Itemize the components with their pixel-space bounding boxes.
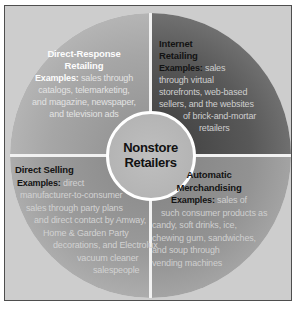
text-line: such consumer products as xyxy=(152,207,284,220)
text-line: and magazine, newspaper, xyxy=(20,96,148,108)
text-line: vending machines xyxy=(152,257,284,270)
text-line: sales through party plans xyxy=(15,202,157,215)
text-line: Nonstore xyxy=(123,141,178,156)
text-line: Examples: sales of xyxy=(152,194,284,207)
text-line: Examples: direct xyxy=(15,177,157,190)
text-line: Examples: sales through xyxy=(20,72,148,84)
text-line: catalogs, telemarketing, xyxy=(20,84,148,96)
figure-frame: NonstoreRetailers Direct-ResponseRetaili… xyxy=(4,5,292,301)
text-line: and television ads xyxy=(20,108,148,120)
text-line: sellers, and the websites xyxy=(159,98,281,110)
quadrant-description: Examples: salesthrough virtualstorefront… xyxy=(159,62,281,134)
text-line: decorations, and Electrolux xyxy=(15,239,157,252)
text-line: Retailing xyxy=(159,50,281,62)
quadrant-description: Examples: directmanufacturer-to-consumer… xyxy=(15,177,157,277)
text-line: salespeople xyxy=(15,264,157,277)
quadrant-title: AutomaticMerchandising xyxy=(152,169,284,194)
text-internet-retailing: InternetRetailing Examples: salesthrough… xyxy=(159,38,281,134)
text-line: and direct contact by Amway, xyxy=(15,214,157,227)
quadrant-title: Direct-ResponseRetailing xyxy=(20,48,148,72)
text-line: Merchandising xyxy=(152,182,266,195)
quadrant-description: Examples: sales ofsuch consumer products… xyxy=(152,194,284,269)
text-line: through virtual xyxy=(159,74,281,86)
text-line: Internet xyxy=(159,38,281,50)
text-line: Direct Selling xyxy=(15,164,157,177)
text-line: and soup through xyxy=(152,244,284,257)
quadrant-title: InternetRetailing xyxy=(159,38,281,62)
text-line: Direct-Response xyxy=(20,48,148,60)
text-direct-selling: Direct Selling Examples: directmanufactu… xyxy=(15,164,157,277)
text-line: retailers xyxy=(159,122,281,134)
text-line: Examples: sales xyxy=(159,62,281,74)
text-line: of brick-and-mortar xyxy=(159,110,281,122)
text-line: Automatic xyxy=(152,169,266,182)
text-line: candy, soft drinks, ice, xyxy=(152,219,284,232)
quadrant-title: Direct Selling xyxy=(15,164,157,177)
quadrant-description: Examples: sales throughcatalogs, telemar… xyxy=(20,72,148,120)
text-direct-response-retailing: Direct-ResponseRetailing Examples: sales… xyxy=(20,48,148,120)
text-line: storefronts, web-based xyxy=(159,86,281,98)
text-line: manufacturer-to-consumer xyxy=(15,189,157,202)
text-line: chewing gum, sandwiches, xyxy=(152,232,284,245)
figure-page: NonstoreRetailers Direct-ResponseRetaili… xyxy=(0,0,294,314)
text-line: Retailing xyxy=(20,60,148,72)
text-line: Home & Garden Party xyxy=(15,227,157,240)
text-line: vacuum cleaner xyxy=(15,252,157,265)
text-automatic-merchandising: AutomaticMerchandising Examples: sales o… xyxy=(152,169,284,269)
